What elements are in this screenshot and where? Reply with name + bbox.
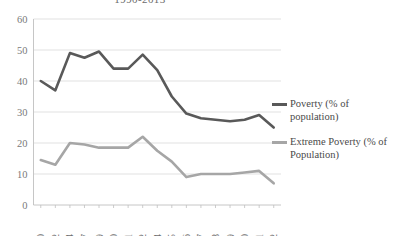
series-line-poverty (41, 52, 274, 128)
legend-item-poverty: Poverty (% of population) (272, 98, 397, 123)
x-axis-tick-label: 007 (196, 234, 206, 236)
y-axis-tick-label: 30 (17, 107, 28, 118)
x-axis-tick-label: 002 (138, 234, 148, 236)
x-axis-tick-label: 001 (124, 234, 134, 236)
y-axis-tick-label: 20 (17, 138, 28, 149)
x-axis-tick-label: 000 (109, 234, 119, 236)
x-axis-tick-label: 008 (211, 234, 221, 236)
x-axis-tick-label: 994 (65, 234, 75, 236)
x-axis-tick-label: 997 (80, 234, 90, 236)
y-axis-tick-label: 50 (17, 45, 28, 56)
x-axis-tick-label: 010 (240, 234, 250, 236)
x-axis-tick-label: 004 (153, 234, 163, 236)
legend-label-extreme-poverty: Extreme Poverty (% of Population) (290, 136, 397, 161)
y-axis-tick-label: 60 (17, 14, 28, 25)
data-series-group (41, 52, 274, 184)
chart-legend: Poverty (% of population) Extreme Povert… (272, 98, 397, 174)
y-axis-tick-label: 10 (17, 169, 28, 180)
y-axis-labels-group: 0102030405060 (17, 14, 28, 211)
y-axis-tick-label: 0 (22, 200, 27, 211)
x-axis-tick-label: 005 (167, 234, 177, 236)
x-axis-tick-label: 006 (182, 234, 192, 236)
legend-swatch-poverty (272, 103, 287, 106)
x-axis-tick-label: 992 (51, 234, 61, 236)
x-axis-tick-label: 012 (269, 234, 279, 236)
series-line-extreme-poverty (41, 137, 274, 184)
legend-item-extreme-poverty: Extreme Poverty (% of Population) (272, 136, 397, 161)
x-axis-tick-label: 999 (95, 234, 105, 236)
x-axis-tick-label: 011 (255, 234, 265, 236)
x-axis-tick-label: 009 (226, 234, 236, 236)
y-axis-tick-label: 40 (17, 76, 28, 87)
legend-swatch-extreme-poverty (272, 141, 287, 144)
x-axis-labels-group: 9909929949979990000010020040050060070080… (36, 234, 279, 236)
x-axis-tick-label: 990 (36, 234, 46, 236)
poverty-line-chart: 1990-2013 0102030405060 9909929949979990… (0, 0, 397, 236)
legend-label-poverty: Poverty (% of population) (290, 98, 397, 123)
